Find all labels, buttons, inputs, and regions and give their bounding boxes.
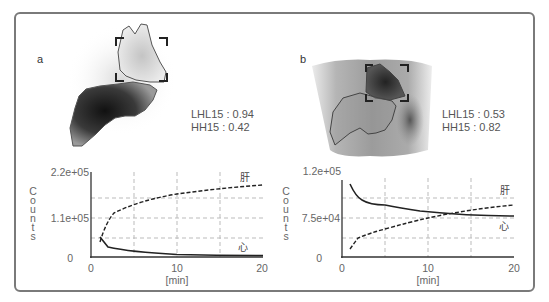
figure-graphics: 2.2e+05 1.1e+05 0 0 10 20 [min] Cou nts … bbox=[0, 0, 549, 302]
chart-b-xtick-20: 20 bbox=[508, 262, 520, 274]
chart-b-heart-label: 心 bbox=[499, 221, 509, 232]
chart-a-ytick-zero: 0 bbox=[67, 252, 73, 264]
chart-a-xtick-20: 20 bbox=[256, 262, 268, 274]
svg-text:s: s bbox=[283, 230, 288, 242]
chart-b-ytick-max: 1.2e+05 bbox=[303, 165, 341, 177]
chart-b-xtick-0: 0 bbox=[339, 262, 345, 274]
panel-a-scintigram bbox=[67, 24, 177, 146]
chart-b-xlabel: [min] bbox=[417, 274, 440, 286]
chart-b-xtick-10: 10 bbox=[422, 262, 434, 274]
chart-a-ytick-max: 2.2e+05 bbox=[51, 166, 89, 178]
chart-b-ytick-zero: 0 bbox=[316, 252, 322, 264]
chart-b-liver-label: 肝 bbox=[500, 185, 510, 196]
chart-a-ytick-mid: 1.1e+05 bbox=[51, 212, 89, 224]
chart-b-heart-curve bbox=[350, 184, 514, 216]
svg-text:s: s bbox=[30, 230, 35, 242]
chart-b-ytick-mid: 7.5e+04 bbox=[302, 212, 340, 224]
chart-a-liver-label: 肝 bbox=[240, 172, 250, 183]
chart-a-ylabel: Cou nts bbox=[29, 185, 37, 242]
chart-b-ylabel: Cou nts bbox=[282, 185, 290, 242]
panel-b-scintigram bbox=[312, 60, 432, 157]
chart-a-xlabel: [min] bbox=[166, 274, 189, 286]
chart-b: 1.2e+05 7.5e+04 0 0 10 20 [min] Cou nts … bbox=[282, 165, 520, 286]
chart-a: 2.2e+05 1.1e+05 0 0 10 20 [min] Cou nts … bbox=[29, 166, 268, 286]
chart-a-xtick-0: 0 bbox=[88, 262, 94, 274]
chart-a-liver-curve bbox=[100, 185, 263, 242]
chart-a-xtick-10: 10 bbox=[171, 262, 183, 274]
chart-a-heart-label: 心 bbox=[238, 242, 248, 253]
